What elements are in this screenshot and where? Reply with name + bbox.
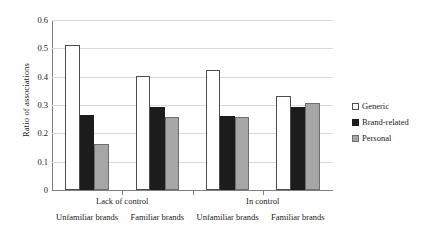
bar-brand-related-group-2 [150, 107, 165, 190]
bar-personal-group-2 [165, 117, 180, 190]
bar-generic-group-3 [206, 70, 221, 190]
bar-personal-group-3 [235, 117, 250, 190]
x-axis-group-label: In control [193, 196, 334, 206]
bar-brand-related-group-1 [80, 115, 95, 190]
y-axis-tick-label: 0.6 [8, 16, 48, 25]
bar-personal-group-4 [305, 103, 320, 190]
category-separator-tick [122, 190, 123, 195]
legend-swatch-icon [352, 103, 359, 110]
bar-brand-related-group-4 [291, 107, 306, 190]
y-axis-tick-label: 0.4 [8, 73, 48, 82]
bar-generic-group-1 [65, 45, 80, 190]
category-separator-tick [263, 190, 264, 195]
x-axis-group-label: Lack of control [52, 196, 193, 206]
y-axis-tick-label: 0.5 [8, 44, 48, 53]
bar-personal-group-1 [94, 144, 109, 190]
bar-chart-figure: Ratio of associations 0.60.50.40.30.20.1… [0, 0, 438, 236]
y-axis-tick-label: 0 [8, 186, 48, 195]
x-axis-category-label: Familiar brands [252, 212, 344, 222]
legend-item-label: Brand-related [362, 118, 409, 127]
legend-swatch-icon [352, 119, 359, 126]
y-axis-tick-labels: 0.60.50.40.30.20.10 [4, 20, 48, 190]
bar-generic-group-4 [276, 96, 291, 190]
legend-item-generic: Generic [352, 98, 438, 114]
chart-legend: GenericBrand-relatedPersonal [352, 98, 438, 146]
x-axis-category-labels: Unfamiliar brandsFamiliar brandsUnfamili… [30, 212, 355, 226]
bars-layer [52, 20, 333, 190]
y-axis-tick-label: 0.2 [8, 129, 48, 138]
x-axis-group-labels: Lack of controlIn control [52, 196, 333, 210]
bar-generic-group-2 [136, 76, 151, 190]
legend-item-brand-related: Brand-related [352, 114, 438, 130]
legend-item-personal: Personal [352, 130, 438, 146]
legend-swatch-icon [352, 135, 359, 142]
legend-item-label: Personal [362, 134, 391, 143]
y-axis-tick-label: 0.3 [8, 101, 48, 110]
y-axis-tick-label: 0.1 [8, 158, 48, 167]
legend-item-label: Generic [362, 102, 389, 111]
category-separator-tick [193, 190, 194, 195]
bar-brand-related-group-3 [220, 116, 235, 190]
